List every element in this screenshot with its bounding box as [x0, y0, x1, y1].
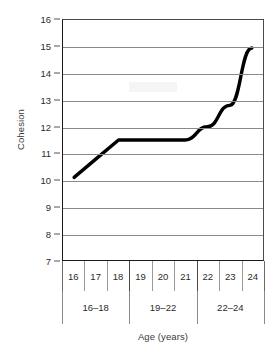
y-tick-label: 15 [40, 40, 51, 51]
x-tick-label: 19 [129, 261, 151, 291]
chart-figure: Cohesion 16151413121110987 1617181920212… [0, 0, 277, 358]
y-tick-label: 9 [46, 202, 51, 213]
x-group-label: 16–18 [62, 291, 129, 324]
x-group-separator [129, 291, 130, 324]
x-tick-label: 23 [219, 261, 241, 291]
x-tick-separator [107, 261, 108, 291]
series-path [74, 48, 252, 177]
y-tick-mark [54, 126, 60, 127]
x-tick-separator [197, 261, 198, 291]
gridline [63, 128, 263, 129]
x-tick-separator [129, 261, 130, 291]
gridline [63, 154, 263, 155]
x-axis-ticks: 161718192021222324 [62, 261, 264, 291]
y-tick-mark [54, 19, 60, 20]
gridline [63, 101, 263, 102]
x-axis-title: Age (years) [62, 331, 264, 342]
x-tick-label: 22 [197, 261, 219, 291]
x-tick-label: 21 [174, 261, 196, 291]
y-tick-mark [54, 153, 60, 154]
gridline [63, 74, 263, 75]
y-tick-label: 7 [46, 256, 51, 267]
y-tick-label: 10 [40, 175, 51, 186]
y-tick-mark [54, 45, 60, 46]
x-group-separator [264, 291, 265, 324]
y-tick-mark [54, 261, 60, 262]
y-tick-label: 13 [40, 94, 51, 105]
y-tick-label: 14 [40, 67, 51, 78]
gridline [63, 181, 263, 182]
x-axis-group-band: 16–1819–2222–24 [62, 291, 264, 324]
y-tick-mark [54, 234, 60, 235]
x-tick-separator [264, 261, 265, 291]
x-group-separator [197, 291, 198, 324]
y-tick-label: 11 [41, 148, 51, 159]
y-tick-mark [54, 99, 60, 100]
y-axis-ticks: 16151413121110987 [0, 0, 62, 358]
gridline [63, 47, 263, 48]
x-group-separator [62, 291, 63, 324]
x-tick-separator [174, 261, 175, 291]
x-tick-label: 17 [84, 261, 106, 291]
y-tick-mark [54, 207, 60, 208]
x-tick-separator [84, 261, 85, 291]
y-tick-label: 8 [46, 229, 51, 240]
x-tick-separator [242, 261, 243, 291]
x-tick-label: 16 [62, 261, 84, 291]
x-tick-label: 20 [152, 261, 174, 291]
x-tick-separator [219, 261, 220, 291]
y-tick-mark [54, 72, 60, 73]
x-tick-separator [62, 261, 63, 291]
y-tick-mark [54, 180, 60, 181]
x-tick-label: 18 [107, 261, 129, 291]
gridline [63, 235, 263, 236]
cohesion-line-series [63, 20, 263, 260]
y-tick-label: 16 [40, 14, 51, 25]
y-tick-label: 12 [40, 121, 51, 132]
x-tick-separator [152, 261, 153, 291]
x-tick-label: 24 [242, 261, 264, 291]
gridline [63, 208, 263, 209]
plot-area [62, 19, 264, 261]
x-group-label: 19–22 [129, 291, 196, 324]
x-group-label: 22–24 [197, 291, 264, 324]
